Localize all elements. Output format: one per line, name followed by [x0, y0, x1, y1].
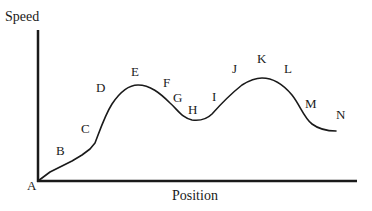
point-label-a: A	[27, 178, 37, 193]
y-axis-label: Speed	[5, 9, 39, 24]
point-label-n: N	[336, 107, 346, 122]
point-label-l: L	[284, 61, 292, 76]
point-label-m: M	[305, 96, 317, 111]
point-label-k: K	[257, 51, 267, 66]
point-label-e: E	[131, 64, 139, 79]
point-label-j: J	[232, 61, 237, 76]
point-label-c: C	[81, 121, 90, 136]
point-label-g: G	[173, 90, 182, 105]
point-label-d: D	[96, 80, 105, 95]
point-label-h: H	[188, 102, 197, 117]
point-label-i: I	[212, 89, 216, 104]
point-label-f: F	[163, 75, 170, 90]
x-axis-label: Position	[172, 188, 218, 203]
point-label-b: B	[56, 143, 65, 158]
speed-position-diagram: Speed Position A B C D E F G H I J K L M…	[0, 0, 372, 211]
